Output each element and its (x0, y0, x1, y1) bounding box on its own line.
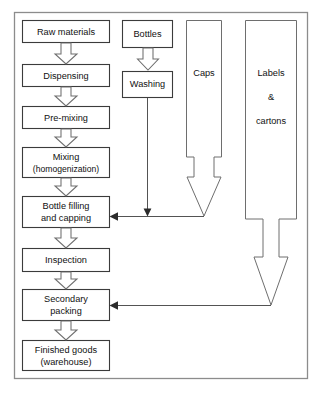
process-box-raw-materials: Raw materials (23, 21, 110, 43)
block-arrow-premixing-to-mixing (55, 129, 77, 147)
block-arrow-mixing-to-filling (55, 178, 77, 196)
process-label-secondary-packing-line2: packing (50, 306, 82, 316)
process-box-dispensing: Dispensing (23, 65, 110, 87)
block-arrow-packing-to-finished (55, 321, 77, 340)
supply-label-caps: Caps (193, 68, 215, 78)
process-label-bottles: Bottles (133, 29, 161, 39)
process-label-bottle-filling-line2: and capping (41, 213, 91, 223)
process-label-washing: Washing (130, 79, 165, 89)
flowchart-diagram: Raw materials Dispensing Pre-mixing Mixi… (0, 0, 322, 396)
process-label-pre-mixing: Pre-mixing (44, 113, 88, 123)
process-label-inspection: Inspection (45, 255, 87, 265)
block-arrow-bottles-to-washing (138, 48, 159, 70)
block-arrow-inspection-to-packing (55, 272, 77, 289)
process-label-mixing-line1: Mixing (53, 152, 80, 162)
process-label-finished-goods-line1: Finished goods (35, 345, 98, 355)
arrowhead-into-secondary-packing (110, 301, 119, 309)
connector-washing-to-filling (144, 98, 152, 217)
process-label-raw-materials: Raw materials (37, 27, 96, 37)
process-box-mixing: Mixing (homogenization) (23, 148, 110, 178)
arrowhead-into-bottle-filling (110, 212, 119, 220)
process-box-bottle-filling: Bottle filling and capping (23, 197, 110, 228)
process-box-secondary-packing: Secondary packing (23, 290, 110, 321)
process-box-pre-mixing: Pre-mixing (23, 107, 110, 129)
supply-column-labels-cartons: Labels & cartons (246, 21, 297, 306)
supply-label-labels: Labels (257, 68, 284, 78)
process-box-washing: Washing (123, 72, 173, 98)
connector-caps-to-filling (110, 212, 205, 220)
process-label-bottle-filling-line1: Bottle filling (43, 201, 90, 211)
process-label-dispensing: Dispensing (43, 71, 88, 81)
supply-label-cartons: cartons (256, 116, 287, 126)
block-arrow-raw-to-dispensing (55, 43, 77, 64)
process-label-secondary-packing-line1: Secondary (44, 294, 88, 304)
block-arrow-dispensing-to-premixing (55, 87, 77, 106)
arrowhead-washing-feed (144, 209, 152, 217)
process-label-finished-goods-line2: (warehouse) (40, 357, 91, 367)
process-box-inspection: Inspection (23, 249, 110, 272)
bottle-branch: Bottles Washing (123, 21, 173, 217)
supply-block-arrow-caps (187, 21, 222, 217)
supply-label-ampersand: & (268, 92, 274, 102)
figure-caption-strip (0, 383, 322, 396)
supply-block-arrow-labels-cartons (246, 21, 297, 306)
connector-labels-to-packing (110, 301, 272, 309)
process-box-finished-goods: Finished goods (warehouse) (23, 341, 110, 371)
process-box-bottles: Bottles (123, 21, 173, 48)
process-label-mixing-line2: (homogenization) (33, 164, 100, 174)
flowchart-canvas: Raw materials Dispensing Pre-mixing Mixi… (0, 0, 322, 396)
supply-column-caps: Caps (187, 21, 222, 217)
block-arrow-filling-to-inspection (55, 228, 77, 248)
